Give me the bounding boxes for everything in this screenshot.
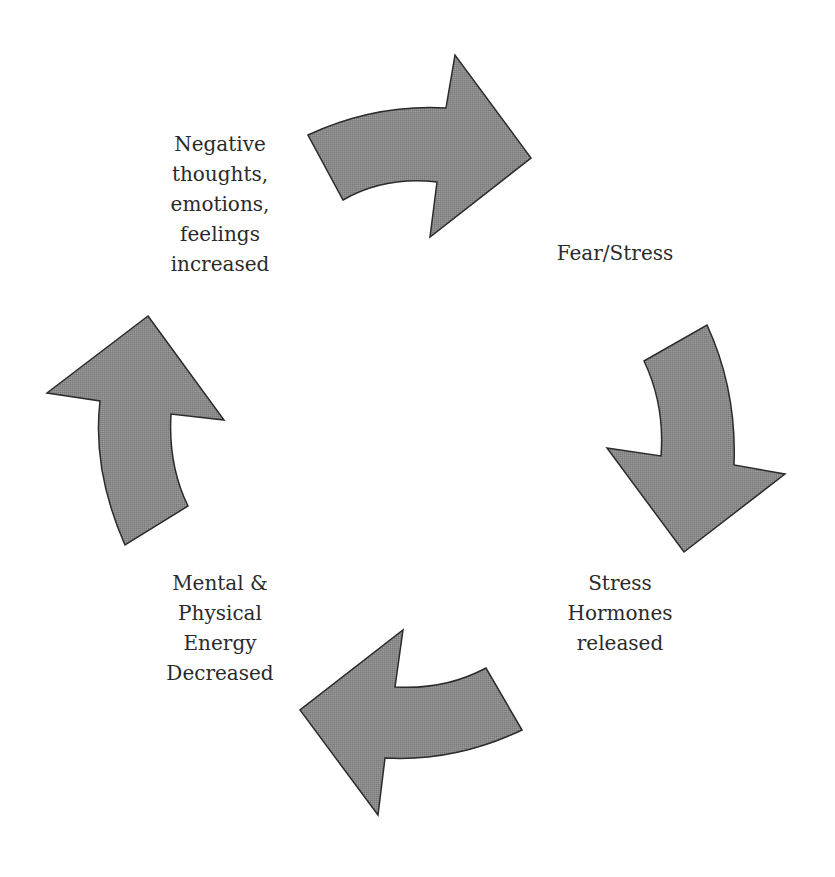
curved-arrow-up-icon (47, 316, 224, 545)
node-text-line: released (540, 628, 700, 658)
node-text-line: Hormones (540, 598, 700, 628)
cycle-arrows (0, 0, 835, 877)
node-text-line: Negative (140, 129, 300, 159)
node-text-line: feelings (140, 219, 300, 249)
curved-arrow-right-icon (308, 55, 531, 237)
node-text-line: emotions, (140, 189, 300, 219)
node-text-line: increased (140, 249, 300, 279)
stress-cycle-diagram: Negative thoughts, emotions, feelings in… (0, 0, 835, 877)
node-text-line: Physical (145, 598, 295, 628)
node-text-line: Mental & (145, 568, 295, 598)
node-text-line: thoughts, (140, 159, 300, 189)
node-text-line: Fear/Stress (540, 238, 690, 268)
node-stress-hormones: Stress Hormones released (540, 568, 700, 658)
node-text-line: Energy (145, 628, 295, 658)
node-text-line: Stress (540, 568, 700, 598)
node-negative-thoughts: Negative thoughts, emotions, feelings in… (140, 129, 300, 279)
curved-arrow-down-icon (607, 325, 785, 552)
node-energy-decreased: Mental & Physical Energy Decreased (145, 568, 295, 688)
curved-arrow-left-icon (300, 630, 522, 815)
node-text-line: Decreased (145, 658, 295, 688)
node-fear-stress: Fear/Stress (540, 238, 690, 268)
